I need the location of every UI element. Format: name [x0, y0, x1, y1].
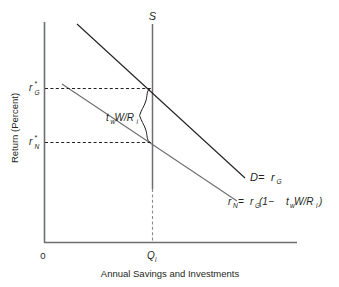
y-tick-rg-base: r	[29, 82, 33, 93]
net-label-rhs-base: r	[250, 196, 254, 207]
y-tick-rg-star: *	[35, 79, 38, 88]
net-return-curve-label: r N = r G (1− t w W/R i )	[228, 196, 322, 209]
supply-demand-figure: S r * G r * N 0 Q i Annual Savings and I…	[0, 0, 339, 287]
origin-label: 0	[40, 250, 45, 261]
figure-canvas: S r * G r * N 0 Q i Annual Savings and I…	[0, 0, 339, 287]
x-tick-q-sub: i	[155, 256, 157, 263]
net-label-w-sub: i	[316, 202, 318, 209]
y-tick-rn-sub: N	[35, 143, 40, 150]
tax-wedge-t: t	[106, 112, 110, 123]
y-tick-rn-base: r	[29, 136, 33, 147]
x-axis-title: Annual Savings and Investments	[101, 268, 240, 279]
y-tick-rg-sub: G	[35, 89, 40, 96]
demand-label-base: r	[271, 171, 276, 183]
tax-wedge-brace	[140, 89, 151, 143]
x-tick-q-base: Q	[147, 250, 155, 261]
supply-curve-label: S	[149, 10, 157, 22]
y-tick-rn-star: *	[35, 133, 38, 142]
demand-label-sub: G	[277, 178, 282, 185]
demand-label-eq: =	[258, 171, 265, 183]
net-label-open: (1−	[259, 196, 274, 207]
net-label-close: )	[318, 196, 322, 207]
tax-wedge-main: W/R	[115, 112, 134, 123]
y-tick-label-rn-star: r * N	[29, 133, 40, 150]
y-tick-label-rg-star: r * G	[29, 79, 40, 96]
x-tick-label-qi: Q i	[147, 250, 157, 263]
gross-demand-curve-label: D = r G	[250, 171, 282, 185]
demand-label-lhs: D	[250, 171, 258, 183]
gross-demand-curve	[77, 24, 245, 178]
net-label-w: W/R	[294, 196, 313, 207]
y-axis-title: Return (Percent)	[9, 93, 20, 163]
tax-wedge-label: t w W/R i	[106, 112, 139, 125]
net-label-eq: =	[238, 196, 244, 207]
tax-wedge-main-sub: i	[137, 118, 139, 125]
